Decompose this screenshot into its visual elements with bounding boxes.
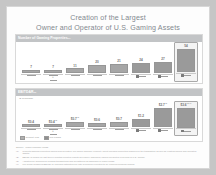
bar-rect	[110, 122, 128, 127]
bar-value-label: $1.2	[138, 115, 144, 118]
company-logo-icon	[27, 129, 36, 130]
footnote-text: Reflects gaming properties owned and ope…	[23, 150, 201, 156]
company-logo-icon	[93, 129, 102, 130]
footnote-item: (4)Pro forma combined EBITDAR includes e…	[16, 163, 200, 166]
chart-1-plot: 77+112021242754	[16, 42, 202, 82]
bar-column: $3.6(3)(4)	[174, 101, 198, 136]
bar-value-label: 7	[30, 66, 32, 69]
bar-column: 24	[130, 42, 152, 82]
footnote-item: (2)EBITDAR based on last twelve months r…	[16, 156, 200, 159]
bar-value-label: 27	[161, 58, 164, 61]
bar-category-label	[93, 129, 102, 136]
footnote-source-marker: Source:	[16, 146, 24, 148]
chart-1-title-sup: (1)	[68, 37, 71, 39]
bar-column: 7+	[42, 42, 64, 82]
company-logo-icon	[181, 130, 191, 133]
chart-2-title: EBITDAR	[18, 90, 33, 94]
bar-value-superscript: (3)	[165, 102, 168, 104]
bar-category-label	[27, 75, 36, 82]
bar-rect	[110, 64, 128, 73]
bar-value-label: $2.7(3)	[159, 102, 168, 107]
page-title: Creation of the Largest Owner and Operat…	[7, 14, 209, 33]
footnote-marker: (2)	[16, 156, 21, 158]
title-line-2: Owner and Operator of U.S. Gaming Assets	[7, 24, 209, 34]
chart-1-title: Number of Gaming Properties	[18, 36, 68, 40]
legend-item-proforma: Pro Forma	[44, 136, 61, 141]
company-logo-icon	[181, 74, 191, 77]
legend-label-proforma: Pro Forma	[50, 136, 61, 139]
bar-value-label: 20	[95, 61, 98, 64]
bar-category-label	[181, 130, 191, 135]
bar-column: 20	[86, 42, 108, 82]
company-logo-icon	[50, 134, 57, 135]
bar-category-label	[71, 75, 80, 82]
bar-category-label	[158, 129, 168, 136]
bar-column: 27	[152, 42, 174, 82]
footnote-text: EBITDAR based on last twelve months repo…	[23, 156, 146, 159]
footnote-item: (1)Reflects gaming properties owned and …	[16, 150, 200, 156]
bar-column: $0.7(3)	[64, 101, 86, 136]
title-line-1: Creation of the Largest	[7, 14, 209, 24]
bar-category-label	[181, 74, 191, 81]
bar-value-label: 24	[139, 59, 142, 62]
bar-value-superscript: (3)	[77, 116, 80, 118]
bar-rect	[132, 119, 150, 127]
footnote-list: (1)Reflects gaming properties owned and …	[16, 150, 200, 166]
bar-column: $0.4	[20, 101, 42, 136]
chart-panel-properties: Number of Gaming Properties (1) 77+11202…	[15, 34, 203, 84]
company-logo-icon	[71, 129, 80, 130]
slide-page: Creation of the Largest Owner and Operat…	[6, 6, 210, 169]
bar-value-label: $0.7(3)	[71, 116, 80, 121]
slide-canvas: Creation of the Largest Owner and Operat…	[0, 0, 216, 175]
bar-column: $0.4(3)+	[42, 101, 64, 136]
bar-value-label: 7	[52, 66, 54, 69]
bar-rect	[154, 108, 172, 127]
company-logo-icon	[158, 129, 168, 132]
bar-column: $2.7(3)	[152, 101, 174, 136]
bar-category-label	[115, 129, 124, 136]
company-logo-icon	[136, 129, 146, 132]
chart-2-title-sup: (2)	[33, 91, 36, 93]
bar-column: 21	[108, 42, 130, 82]
bar-rect	[66, 122, 84, 127]
legend-swatch-icon	[20, 136, 25, 141]
company-logo-icon	[71, 75, 80, 76]
bar-rect	[88, 123, 106, 127]
company-logo-icon	[27, 75, 36, 76]
footnote-item: (3)Adjusted for announced pending transa…	[16, 160, 200, 163]
bar-value-label: 21	[117, 60, 120, 63]
footnote-text: Pro forma combined EBITDAR includes esti…	[23, 163, 135, 166]
footnote-source-text: Public company filings	[25, 146, 48, 149]
bar-value-label: $3.6(3)(4)	[180, 102, 191, 107]
footnote-source: Source: Public company filings	[16, 146, 200, 149]
bar-column: 7	[20, 42, 42, 82]
bar-category-label	[136, 129, 146, 136]
bar-column: $0.7	[108, 101, 130, 136]
bar-value-label: $0.4	[28, 121, 34, 124]
chart-2-subtitle: ($ in billions)	[19, 97, 33, 100]
bar-rect	[177, 49, 195, 72]
company-logo-icon	[50, 80, 57, 81]
bar-rect	[88, 65, 106, 74]
company-logo-icon	[115, 75, 124, 76]
footnote-text: Adjusted for announced pending transacti…	[23, 160, 115, 163]
company-logo-icon	[93, 75, 102, 76]
bar-column: 54	[174, 42, 198, 82]
footnotes-block: Source: Public company filings (1)Reflec…	[16, 146, 200, 167]
chart-2-legend: Current Year Pro Forma	[20, 136, 61, 141]
company-logo-icon	[136, 75, 146, 78]
bar-category-label	[93, 75, 102, 82]
chart-2-header: EBITDAR (2)	[16, 89, 202, 96]
chart-2-plot: $0.4$0.4(3)+$0.7(3)$0.6$0.7$1.2$2.7(3)$3…	[16, 101, 202, 136]
chart-1-header: Number of Gaming Properties (1)	[16, 35, 202, 42]
bar-rect	[132, 63, 150, 73]
footnote-marker: (4)	[16, 163, 21, 165]
legend-item-current: Current Year	[20, 136, 39, 141]
bar-value-label: $0.4(3)	[49, 119, 58, 124]
bar-column: $0.6	[86, 101, 108, 136]
footnote-marker: (3)	[16, 160, 21, 162]
bar-value-superscript: (3)(4)	[186, 102, 191, 104]
chart-panel-ebitdar: EBITDAR (2) ($ in billions) $0.4$0.4(3)+…	[15, 88, 203, 142]
bar-category-label	[115, 75, 124, 82]
company-logo-icon	[115, 129, 124, 130]
